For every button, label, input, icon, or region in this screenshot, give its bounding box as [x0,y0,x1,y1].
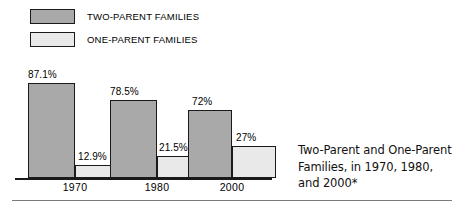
chart-figure: TWO-PARENT FAMILIES ONE-PARENT FAMILIES … [0,0,464,212]
x-tick-label-2000: 2000 [188,182,276,193]
bar-value-two-parent-2000: 72% [192,97,212,107]
bar-value-one-parent-1970: 12.9% [78,152,107,162]
chart-plot-area: 87.1% 12.9% 1970 78.5% 21.5% 1980 72% 27… [0,0,280,200]
caption-line-2: Families, in 1970, 1980, [298,159,458,176]
caption-line-1: Two-Parent and One-Parent [298,142,458,159]
bar-two-parent-2000 [188,110,232,178]
chart-caption: Two-Parent and One-Parent Families, in 1… [298,142,458,192]
bar-value-one-parent-2000: 27% [236,133,256,143]
bar-value-one-parent-1980: 21.5% [159,143,188,153]
bar-one-parent-2000 [232,146,276,178]
bar-value-two-parent-1970: 87.1% [28,70,57,80]
caption-line-3: and 2000* [298,175,458,192]
bar-two-parent-1980 [110,100,157,178]
bar-two-parent-1970 [28,83,75,178]
x-tick-label-1970: 1970 [28,182,122,193]
bottom-divider [12,200,452,201]
x-axis-baseline [15,178,272,180]
bar-value-two-parent-1980: 78.5% [110,87,139,97]
